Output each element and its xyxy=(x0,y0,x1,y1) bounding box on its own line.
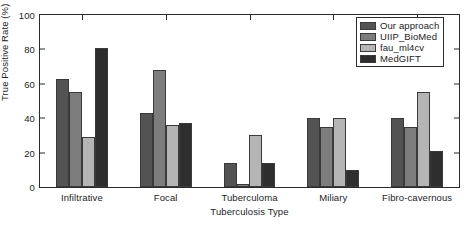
y-tick-mark xyxy=(40,83,45,84)
figure: True Positive Rate (%) 020406080100 Infi… xyxy=(0,0,471,227)
y-tick-mark xyxy=(454,49,459,50)
bar-group xyxy=(56,15,108,187)
legend-item[interactable]: MedGIFT xyxy=(360,53,439,64)
bar xyxy=(430,151,443,187)
y-tick-mark xyxy=(454,118,459,119)
bar xyxy=(320,127,333,187)
x-tick-label: Infiltrative xyxy=(61,192,103,203)
x-axis-label: Tuberculosis Type xyxy=(39,206,460,217)
y-tick-mark xyxy=(40,152,45,153)
bar xyxy=(237,184,250,187)
legend-item[interactable]: Our approach xyxy=(360,20,439,31)
bar xyxy=(95,48,108,187)
legend-label: Our approach xyxy=(380,20,439,31)
bar xyxy=(224,163,237,187)
legend-label: MedGIFT xyxy=(380,53,421,64)
bar xyxy=(56,79,69,187)
bar xyxy=(346,170,359,187)
y-tick-mark xyxy=(40,118,45,119)
x-tick-label: Fibro-cavernous xyxy=(382,192,452,203)
y-tick-mark xyxy=(454,83,459,84)
x-tick-label: Focal xyxy=(154,192,178,203)
y-tick-label: 80 xyxy=(24,44,35,55)
bar xyxy=(262,163,275,187)
y-tick-mark xyxy=(40,49,45,50)
y-tick-label: 100 xyxy=(19,10,35,21)
bar-group xyxy=(140,15,192,187)
x-tick-label: Tuberculoma xyxy=(221,192,277,203)
bar xyxy=(333,118,346,187)
y-axis-label: True Positive Rate (%) xyxy=(0,4,10,101)
legend-item[interactable]: fau_ml4cv xyxy=(360,42,439,53)
y-tick-label: 60 xyxy=(24,78,35,89)
bar xyxy=(391,118,404,187)
y-tick-label: 20 xyxy=(24,147,35,158)
bar-group xyxy=(307,15,359,187)
y-tick-label: 0 xyxy=(30,182,35,193)
legend-item[interactable]: UIIP_BioMed xyxy=(360,31,439,42)
legend-swatch-icon xyxy=(360,33,376,41)
y-tick-label: 40 xyxy=(24,113,35,124)
bar xyxy=(417,92,430,187)
bar xyxy=(404,127,417,187)
bar xyxy=(69,92,82,187)
bar xyxy=(249,135,262,187)
legend-label: UIIP_BioMed xyxy=(380,31,437,42)
x-tick-label: Miliary xyxy=(319,192,347,203)
bar xyxy=(140,113,153,187)
y-tick-mark xyxy=(454,152,459,153)
bar xyxy=(166,125,179,187)
bar xyxy=(179,123,192,187)
bar xyxy=(307,118,320,187)
legend: Our approachUIIP_BioMedfau_ml4cvMedGIFT xyxy=(356,17,444,67)
legend-swatch-icon xyxy=(360,44,376,52)
legend-swatch-icon xyxy=(360,55,376,63)
bar-group xyxy=(224,15,276,187)
bar xyxy=(82,137,95,187)
bar xyxy=(153,70,166,187)
legend-label: fau_ml4cv xyxy=(380,42,424,53)
legend-swatch-icon xyxy=(360,22,376,30)
